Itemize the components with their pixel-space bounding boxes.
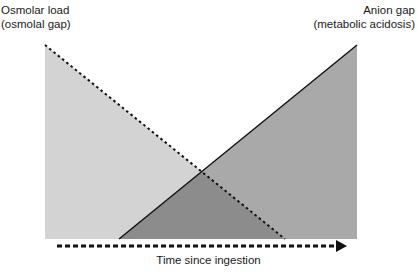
x-axis-label: Time since ingestion (0, 254, 417, 266)
diagram-canvas (0, 0, 417, 274)
time-arrow-head-icon (336, 240, 347, 252)
